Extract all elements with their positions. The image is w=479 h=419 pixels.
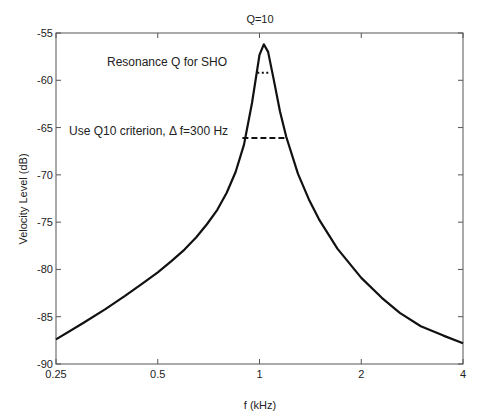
y-tick-label: -90 [37, 358, 53, 370]
y-tick-label: -85 [37, 311, 53, 323]
y-tick-label: -55 [37, 27, 53, 39]
y-tick-label: -65 [37, 122, 53, 134]
y-axis: -90-85-80-75-70-65-60-55 [37, 27, 463, 370]
chart: 0.250.5124 -90-85-80-75-70-65-60-55 Q=10… [0, 0, 479, 419]
y-tick-label: -60 [37, 74, 53, 86]
y-tick-label: -70 [37, 169, 53, 181]
y-tick-label: -80 [37, 263, 53, 275]
x-tick-label: 1 [256, 368, 262, 380]
response-curve [56, 44, 463, 343]
x-tick-label: 0.5 [150, 368, 165, 380]
annotation-q10-criterion: Use Q10 criterion, Δ f=300 Hz [69, 124, 228, 138]
y-axis-label: Velocity Level (dB) [17, 153, 29, 244]
annotation-resonance-q: Resonance Q for SHO [107, 55, 227, 69]
y-tick-label: -75 [37, 216, 53, 228]
x-axis-label: f (kHz) [244, 399, 276, 411]
x-tick-label: 4 [460, 368, 466, 380]
chart-title: Q=10 [246, 13, 273, 25]
x-tick-label: 2 [358, 368, 364, 380]
